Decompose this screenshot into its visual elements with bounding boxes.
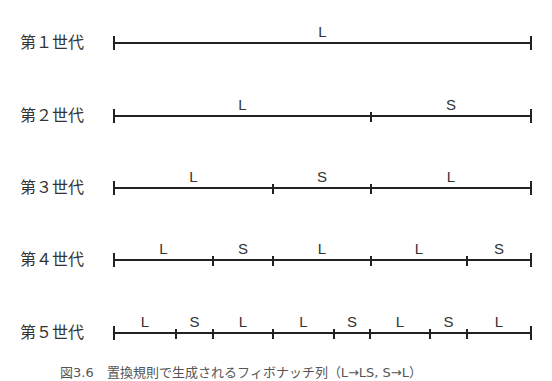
short-segment-label: S [347, 314, 357, 329]
tick-mark [212, 256, 214, 266]
long-segment-label: L [396, 314, 404, 329]
tick-mark [370, 184, 372, 194]
short-segment-label: S [189, 314, 199, 329]
long-segment-label: L [318, 24, 326, 39]
tick-mark [272, 329, 274, 339]
long-segment-label: L [415, 241, 423, 256]
long-segment-label: L [238, 97, 246, 112]
figure-caption: 図3.6 置換規則で生成されるフィボナッチ列（L→LS, S→L） [60, 362, 422, 381]
tick-mark [530, 109, 532, 123]
generation-label: 第３世代 [20, 179, 84, 197]
short-segment-label: S [443, 314, 453, 329]
tick-mark [113, 36, 115, 50]
tick-mark [272, 184, 274, 194]
tick-mark [333, 329, 335, 339]
tick-mark [370, 256, 372, 266]
tick-mark [369, 329, 371, 339]
tick-mark [530, 36, 532, 50]
segment-line [114, 42, 531, 44]
generation-label: 第２世代 [20, 107, 84, 125]
tick-mark [429, 329, 431, 339]
short-segment-label: S [494, 241, 504, 256]
generation-label: 第４世代 [20, 251, 84, 269]
tick-mark [113, 181, 115, 195]
generation-label: 第１世代 [20, 34, 84, 52]
long-segment-label: L [299, 314, 307, 329]
short-segment-label: S [446, 97, 456, 112]
long-segment-label: L [239, 314, 247, 329]
long-segment-label: L [159, 241, 167, 256]
long-segment-label: L [495, 314, 503, 329]
tick-mark [113, 253, 115, 267]
long-segment-label: L [141, 314, 149, 329]
tick-mark [212, 329, 214, 339]
tick-mark [466, 256, 468, 266]
long-segment-label: L [189, 169, 197, 184]
tick-mark [113, 326, 115, 340]
tick-mark [530, 253, 532, 267]
long-segment-label: L [447, 169, 455, 184]
tick-mark [113, 109, 115, 123]
segment-line [114, 259, 531, 261]
segment-line [114, 187, 531, 189]
segment-line [114, 115, 531, 117]
tick-mark [272, 256, 274, 266]
short-segment-label: S [238, 241, 248, 256]
tick-mark [530, 326, 532, 340]
tick-mark [530, 181, 532, 195]
generation-label: 第５世代 [20, 324, 84, 342]
tick-mark [370, 112, 372, 122]
long-segment-label: L [318, 241, 326, 256]
short-segment-label: S [317, 169, 327, 184]
tick-mark [175, 329, 177, 339]
tick-mark [466, 329, 468, 339]
